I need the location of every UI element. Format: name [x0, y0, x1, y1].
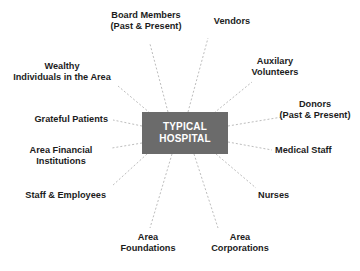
connector-wealthy-individuals [118, 86, 150, 113]
node-label-area-foundations-line-2: Foundations [104, 243, 192, 254]
node-label-medical-staff-line-1: Medical Staff [275, 145, 359, 156]
hub-node-typical-hospital[interactable]: TYPICAL HOSPITAL [142, 112, 228, 154]
node-label-nurses[interactable]: Nurses [258, 190, 318, 201]
node-label-board-members-line-2: (Past & Present) [87, 21, 205, 32]
connector-area-financial-institutions [112, 143, 142, 148]
node-label-donors-line-2: (Past & Present) [272, 110, 358, 121]
node-label-area-corporations-line-1: Area [196, 232, 284, 243]
node-label-vendors[interactable]: Vendors [197, 16, 267, 27]
node-label-wealthy-individuals-line-1: Wealthy [6, 61, 118, 72]
node-label-nurses-line-1: Nurses [258, 190, 318, 201]
node-label-area-foundations[interactable]: Area Foundations [104, 232, 192, 254]
node-label-board-members[interactable]: Board Members (Past & Present) [87, 10, 205, 32]
node-label-board-members-line-1: Board Members [87, 10, 205, 21]
hub-title-line-1: TYPICAL [163, 121, 207, 133]
node-label-area-financial-institutions-line-1: Area Financial [14, 145, 108, 156]
node-label-grateful-patients[interactable]: Grateful Patients [12, 114, 108, 125]
connector-staff-and-employees [112, 154, 147, 186]
node-label-wealthy-individuals-line-2: Individuals in the Area [6, 72, 118, 83]
connector-area-foundations [150, 154, 172, 228]
node-label-area-foundations-line-1: Area [104, 232, 192, 243]
connector-area-corporations [194, 154, 218, 228]
node-label-area-financial-institutions[interactable]: Area Financial Institutions [14, 145, 108, 167]
node-label-area-corporations[interactable]: Area Corporations [196, 232, 284, 254]
node-label-vendors-line-1: Vendors [197, 16, 267, 27]
connector-auxilary-volunteers [214, 82, 252, 113]
node-label-donors-line-1: Donors [272, 99, 358, 110]
node-label-auxilary-volunteers[interactable]: Auxilary Volunteers [236, 56, 314, 78]
connector-board-members [150, 44, 168, 112]
node-label-auxilary-volunteers-line-1: Auxilary [236, 56, 314, 67]
node-label-staff-and-employees[interactable]: Staff & Employees [12, 190, 106, 201]
node-label-staff-and-employees-line-1: Staff & Employees [12, 190, 106, 201]
node-label-donors[interactable]: Donors (Past & Present) [272, 99, 358, 121]
hub-title-line-2: HOSPITAL [159, 133, 210, 145]
connector-grateful-patients [113, 120, 142, 126]
node-label-medical-staff[interactable]: Medical Staff [275, 145, 359, 156]
node-label-grateful-patients-line-1: Grateful Patients [12, 114, 108, 125]
hospital-constituency-diagram: TYPICAL HOSPITAL Board Members (Past & P… [0, 0, 360, 271]
connector-nurses [216, 154, 256, 188]
node-label-area-corporations-line-2: Corporations [196, 243, 284, 254]
node-label-area-financial-institutions-line-2: Institutions [14, 156, 108, 167]
connector-medical-staff [228, 142, 272, 150]
connector-vendors [188, 38, 208, 112]
node-label-wealthy-individuals[interactable]: Wealthy Individuals in the Area [6, 61, 118, 83]
node-label-auxilary-volunteers-line-2: Volunteers [236, 67, 314, 78]
